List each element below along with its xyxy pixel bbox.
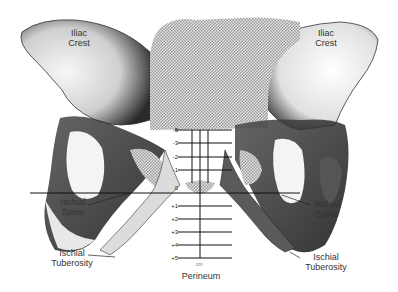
label-ischial-spine-right: Ischial Spine — [310, 199, 344, 219]
tick-plus-3: +3 — [166, 229, 178, 235]
label-perineum: Perineum — [178, 271, 224, 281]
label-ischial-tuberosity-left: Ischial Tuberosity — [48, 248, 96, 268]
tick-minus-3: -3 — [166, 140, 178, 146]
tick-zero: 0 — [166, 185, 178, 191]
scale-unit: cm — [196, 261, 203, 267]
tick-plus-2: +2 — [166, 216, 178, 222]
tick-minus-1: -1 — [166, 167, 178, 173]
label-iliac-crest-left: Iliac Crest — [64, 28, 94, 48]
tick-plus-4: +4 — [166, 242, 178, 248]
tick-minus-2: -2 — [166, 154, 178, 160]
label-ischial-tuberosity-right: Ischial Tuberosity — [302, 252, 350, 272]
tick-plus-5: +5 — [166, 255, 178, 261]
label-ischial-spine-left: Ischial Spine — [56, 197, 90, 217]
tick-minus-5: -5 — [166, 127, 178, 133]
tick-plus-1: +1 — [166, 203, 178, 209]
pelvis-diagram: Iliac Crest Iliac Crest Ischial Spine Is… — [0, 0, 398, 292]
label-iliac-crest-right: Iliac Crest — [311, 28, 341, 48]
